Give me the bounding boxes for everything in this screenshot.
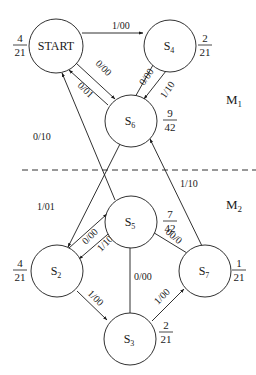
svg-text:1: 1: [236, 257, 242, 269]
prob-s4: 2 21: [198, 32, 212, 58]
state-diagram: M1 M2 1/00 0/00 0/01 0/00: [0, 0, 256, 375]
svg-text:42: 42: [165, 222, 176, 234]
prob-s7: 1 21: [232, 257, 246, 283]
transition-label: 0/00: [137, 66, 156, 87]
svg-text:7: 7: [167, 208, 173, 220]
svg-text:21: 21: [200, 46, 211, 58]
svg-text:4: 4: [17, 32, 23, 44]
transition-label: 1/00: [112, 20, 130, 31]
prob-s3: 2 21: [159, 319, 173, 345]
region-label-m2: M2: [226, 197, 242, 214]
svg-text:4: 4: [17, 257, 23, 269]
transition-label: 0/10: [33, 131, 51, 142]
transition-label: 0/01: [76, 80, 96, 100]
prob-start: 4 21: [13, 32, 27, 58]
svg-text:21: 21: [15, 271, 26, 283]
svg-text:2: 2: [202, 32, 208, 44]
state-label: START: [38, 39, 75, 53]
svg-text:21: 21: [15, 46, 26, 58]
transition-label: 1/10: [180, 178, 198, 189]
prob-s2: 4 21: [13, 257, 27, 283]
transition-label: 1/01: [37, 201, 55, 212]
svg-text:9: 9: [167, 107, 173, 119]
transition-label: 1/10: [158, 79, 177, 100]
svg-text:42: 42: [165, 121, 176, 133]
svg-text:2: 2: [163, 319, 169, 331]
transition-label: 0/00: [134, 271, 152, 282]
prob-s5: 7 42: [163, 208, 177, 234]
transition-label: 1/00: [86, 288, 106, 308]
prob-s6: 9 42: [163, 107, 177, 133]
transition-label: 1/00: [152, 286, 172, 306]
region-label-m1: M1: [226, 92, 242, 109]
transition-label: 0/00: [94, 58, 114, 78]
svg-text:21: 21: [234, 271, 245, 283]
svg-text:21: 21: [161, 333, 172, 345]
